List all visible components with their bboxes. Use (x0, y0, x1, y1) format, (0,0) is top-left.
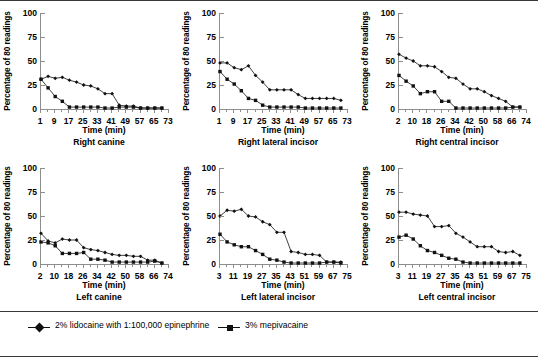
square-marker (511, 105, 514, 108)
series-line-lidocaine (220, 63, 341, 100)
x-tick-mark (333, 110, 334, 113)
legend-label: 2% lidocaine with 1:100,000 epinephrine (55, 320, 209, 331)
y-tick-label: 75 (28, 187, 41, 197)
plot-area: 0255075100 (219, 13, 348, 110)
x-tick-mark (498, 265, 499, 268)
diamond-marker (103, 251, 107, 255)
x-tick-mark (104, 265, 105, 267)
x-tick-mark (47, 265, 48, 267)
plot-svg (41, 168, 169, 264)
y-tick-label: 75 (28, 32, 41, 42)
square-marker (433, 251, 436, 254)
x-tick-mark (276, 110, 277, 113)
square-marker (125, 105, 128, 108)
x-tick-mark (68, 110, 69, 113)
x-tick-mark (147, 265, 148, 267)
y-axis-label: Percentage of 80 readings (360, 60, 372, 164)
diamond-marker (282, 230, 286, 234)
square-marker (275, 258, 278, 261)
x-tick-mark (412, 265, 413, 268)
y-tick-label: 50 (386, 56, 399, 66)
square-marker (282, 260, 285, 263)
square-marker (89, 258, 92, 261)
square-marker (153, 259, 156, 262)
x-tick-mark (476, 265, 477, 267)
y-tick-label: 75 (207, 187, 220, 197)
diamond-marker (482, 90, 486, 94)
y-tick-label: 50 (28, 211, 41, 221)
x-tick-mark (283, 110, 284, 112)
diamond-marker (239, 68, 243, 72)
panel-right-lateral-incisor: Percentage of 80 readings 0255075100 191… (179, 1, 358, 156)
x-tick-mark (255, 265, 256, 267)
y-tick-label: 25 (207, 80, 220, 90)
square-marker (426, 90, 429, 93)
y-axis-label: Percentage of 80 readings (360, 0, 372, 9)
series-line-mepivacaine (41, 242, 162, 263)
series-line-mepivacaine (41, 79, 162, 108)
plot-area: 0255075100 (398, 168, 527, 265)
square-marker (261, 103, 264, 106)
square-marker (75, 252, 78, 255)
diamond-marker (117, 253, 121, 257)
square-marker (404, 79, 407, 82)
x-tick-mark (247, 110, 248, 113)
y-tick-label: 25 (28, 80, 41, 90)
square-marker (82, 105, 85, 108)
x-tick-mark (140, 265, 141, 268)
diamond-marker (89, 248, 93, 252)
x-tick-mark (426, 110, 427, 113)
legend-item-lidocaine: 2% lidocaine with 1:100,000 epinephrine (28, 320, 218, 333)
square-marker (96, 258, 99, 261)
y-tick-label: 100 (23, 163, 41, 173)
x-tick-mark (319, 265, 320, 268)
diamond-marker (68, 78, 72, 82)
x-axis-title: Time (min) (219, 280, 347, 290)
square-marker (433, 90, 436, 93)
square-marker (61, 100, 64, 103)
series-line-lidocaine (41, 76, 162, 108)
diamond-marker (75, 80, 79, 84)
y-tick-label: 25 (207, 235, 220, 245)
legend-item-mepivacaine: 3% mepivacaine (218, 320, 308, 333)
x-tick-mark (97, 265, 98, 268)
square-marker (254, 249, 257, 252)
x-tick-mark (441, 110, 442, 113)
panel-right-central-incisor: Percentage of 80 readings 0255075100 210… (358, 1, 537, 156)
diamond-marker (124, 253, 128, 257)
diamond-marker (139, 254, 143, 258)
x-tick-mark (61, 110, 62, 112)
square-marker (89, 105, 92, 108)
square-marker (110, 260, 113, 263)
x-tick-mark (476, 110, 477, 112)
x-tick-mark (405, 265, 406, 267)
square-marker (233, 82, 236, 85)
x-tick-mark (262, 265, 263, 268)
diamond-marker (311, 253, 315, 257)
x-tick-mark (426, 265, 427, 268)
square-marker (447, 100, 450, 103)
y-tick-label: 75 (207, 32, 220, 42)
square-marker (412, 237, 415, 240)
square-marker (412, 84, 415, 87)
x-tick-mark (519, 110, 520, 112)
square-marker (297, 105, 300, 108)
diamond-marker (60, 237, 64, 241)
x-tick-mark (333, 265, 334, 268)
x-tick-mark (40, 110, 41, 113)
x-axis-title: Time (min) (40, 125, 168, 135)
y-tick-label: 100 (23, 8, 41, 18)
x-axis: 3111927354351596775 (219, 265, 347, 279)
y-tick-label: 25 (386, 235, 399, 245)
x-tick-mark (54, 110, 55, 113)
diamond-marker (311, 97, 315, 101)
y-tick-label: 75 (386, 32, 399, 42)
x-tick-mark (262, 110, 263, 113)
square-marker (268, 258, 271, 261)
x-tick-mark (462, 265, 463, 267)
square-marker (247, 245, 250, 248)
plot-svg (399, 13, 527, 109)
x-tick-mark (347, 110, 348, 113)
square-marker (233, 243, 236, 246)
x-tick-mark (140, 110, 141, 113)
